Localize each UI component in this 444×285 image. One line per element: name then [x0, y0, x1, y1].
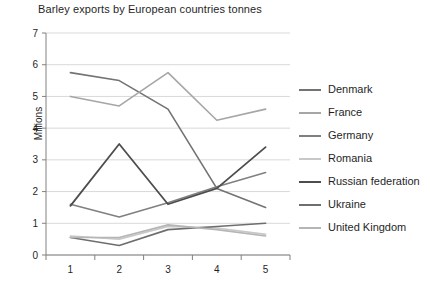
legend-swatch-icon [299, 158, 321, 160]
gridlines [46, 33, 290, 255]
svg-text:5: 5 [263, 264, 269, 275]
x-tick-labels: 12345 [68, 264, 269, 275]
chart-legend: DenmarkFranceGermanyRomaniaRussian feder… [299, 78, 444, 239]
legend-swatch-icon [299, 181, 321, 183]
legend-item-russian-federation[interactable]: Russian federation [299, 170, 444, 193]
legend-label: Denmark [328, 84, 373, 95]
legend-item-denmark[interactable]: Denmark [299, 78, 444, 101]
legend-label: Germany [328, 130, 373, 141]
svg-text:5: 5 [32, 91, 38, 102]
svg-text:1: 1 [68, 264, 74, 275]
line-chart: Barley exports by European countries ton… [0, 0, 444, 285]
svg-text:3: 3 [32, 154, 38, 165]
legend-item-france[interactable]: France [299, 101, 444, 124]
legend-swatch-icon [299, 89, 321, 91]
series-line-denmark [70, 73, 265, 208]
legend-swatch-icon [299, 227, 321, 229]
svg-text:4: 4 [32, 123, 38, 134]
x-tick-marks [46, 255, 290, 260]
legend-label: Romania [328, 153, 372, 164]
svg-text:0: 0 [32, 250, 38, 261]
legend-swatch-icon [299, 112, 321, 114]
legend-label: Russian federation [328, 176, 420, 187]
y-tick-labels: 01234567 [32, 28, 38, 261]
legend-label: United Kingdom [328, 222, 406, 233]
svg-text:3: 3 [165, 264, 171, 275]
svg-text:2: 2 [32, 186, 38, 197]
legend-swatch-icon [299, 135, 321, 137]
svg-text:6: 6 [32, 59, 38, 70]
y-tick-marks [42, 33, 46, 255]
legend-label: France [328, 107, 362, 118]
legend-item-romania[interactable]: Romania [299, 147, 444, 170]
svg-text:4: 4 [214, 264, 220, 275]
legend-item-united-kingdom[interactable]: United Kingdom [299, 216, 444, 239]
data-series-group [70, 73, 265, 246]
svg-text:1: 1 [32, 218, 38, 229]
legend-item-germany[interactable]: Germany [299, 124, 444, 147]
legend-label: Ukraine [328, 199, 366, 210]
legend-item-ukraine[interactable]: Ukraine [299, 193, 444, 216]
series-line-germany [70, 173, 265, 217]
svg-text:2: 2 [116, 264, 122, 275]
svg-text:7: 7 [32, 28, 38, 39]
legend-swatch-icon [299, 204, 321, 206]
